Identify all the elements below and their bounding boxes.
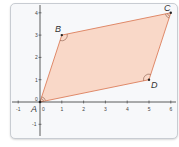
x-tick-label: -1: [16, 106, 21, 112]
label-b: B: [55, 24, 61, 34]
x-tick-label: 0: [42, 106, 45, 112]
point-b: [61, 34, 63, 36]
y-tick-label: 2: [35, 54, 38, 60]
x-tick-label: 5: [148, 106, 151, 112]
x-tick-label: 6: [170, 106, 173, 112]
y-tick-label: -1: [32, 121, 37, 127]
y-tick-label: 0: [35, 96, 38, 102]
label-d: D: [151, 80, 158, 90]
point-a: [39, 101, 42, 104]
label-c: C: [164, 3, 171, 13]
y-tick-label: 1: [35, 77, 38, 83]
coordinate-plane: -1 0 1 2 3 4 5 6 -1 0 1 2 3 4 A B C D: [0, 0, 179, 147]
x-tick-label: 2: [82, 106, 85, 112]
x-tick-label: 4: [126, 106, 129, 112]
x-tick-label: 1: [61, 106, 64, 112]
y-tick-label: 4: [35, 10, 38, 16]
y-tick-label: 3: [35, 32, 38, 38]
label-a: A: [30, 104, 37, 114]
point-d: [148, 79, 150, 81]
x-tick-label: 3: [104, 106, 107, 112]
